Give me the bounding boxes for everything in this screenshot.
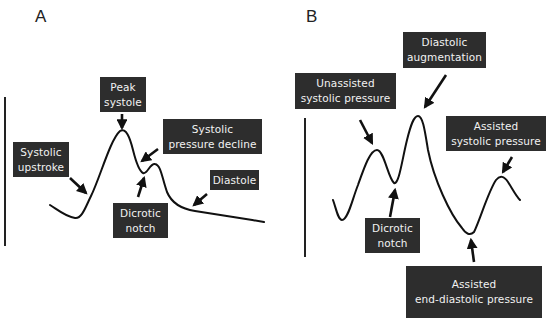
label-line: notch [377, 236, 407, 251]
arrow-diastolic-augmentation [425, 75, 446, 107]
label-line: Dicrotic [120, 206, 161, 221]
label-line: augmentation [407, 50, 482, 65]
label-dicrotic-notch-b: Dicrotic notch [365, 218, 420, 253]
label-line: Dicrotic [372, 221, 413, 236]
label-line: pressure decline [168, 137, 256, 152]
label-line: Diastolic [422, 35, 468, 50]
arrow-dicrotic-notch-a [138, 178, 144, 197]
label-line: notch [125, 221, 155, 236]
label-line: systolic pressure [451, 134, 541, 149]
label-line: Assisted [452, 277, 497, 292]
label-unassisted-systolic-pressure: Unassisted systolic pressure [295, 73, 396, 109]
arrow-systolic-upstroke [70, 178, 86, 193]
label-diastolic-augmentation: Diastolic augmentation [403, 32, 486, 68]
label-peak-systole: Peak systole [100, 77, 146, 112]
label-dicrotic-notch-a: Dicrotic notch [113, 203, 168, 238]
label-assisted-end-diastolic-pressure: Assisted end-diastolic pressure [406, 266, 542, 318]
arrow-assisted-systolic-pressure [503, 157, 512, 172]
label-line: end-diastolic pressure [415, 292, 533, 307]
label-line: upstroke [18, 160, 64, 175]
arrow-dicrotic-notch-b [390, 190, 395, 217]
arrow-assisted-end-diastolic-pressure [471, 240, 474, 262]
label-line: systole [104, 95, 142, 110]
label-systolic-upstroke: Systolic upstroke [13, 142, 69, 177]
label-line: Systolic [192, 122, 233, 137]
label-line: Diastole [213, 173, 257, 188]
label-line: Peak [110, 80, 135, 95]
arrow-diastole [194, 194, 207, 205]
label-systolic-pressure-decline: Systolic pressure decline [163, 119, 262, 154]
arrow-systolic-pressure-decline [142, 149, 158, 161]
label-line: systolic pressure [301, 91, 391, 106]
arrow-unassisted-systolic-pressure [360, 120, 372, 143]
label-line: Systolic [20, 145, 61, 160]
label-line: Unassisted [316, 76, 374, 91]
label-diastole: Diastole [210, 170, 259, 190]
label-line: Assisted [474, 119, 519, 134]
label-assisted-systolic-pressure: Assisted systolic pressure [446, 116, 546, 151]
